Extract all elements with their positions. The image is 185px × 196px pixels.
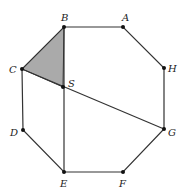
octagon-diagram: ABCDEFGHS — [0, 0, 185, 196]
label-s: S — [68, 78, 75, 89]
label-d: D — [9, 127, 18, 138]
point-e — [62, 170, 66, 174]
label-c: C — [9, 64, 17, 75]
label-f: F — [118, 178, 127, 189]
point-c — [20, 67, 24, 71]
vertex-labels: ABCDEFGHS — [9, 12, 177, 189]
label-b: B — [60, 12, 68, 23]
point-f — [121, 170, 125, 174]
label-e: E — [59, 178, 68, 189]
point-h — [162, 66, 166, 70]
point-g — [162, 127, 166, 131]
segment-cg — [22, 69, 164, 129]
point-b — [62, 25, 66, 29]
point-s — [61, 85, 65, 89]
point-d — [21, 128, 25, 132]
label-a: A — [121, 12, 129, 23]
point-a — [121, 25, 125, 29]
label-h: H — [167, 63, 177, 74]
label-g: G — [168, 127, 176, 138]
